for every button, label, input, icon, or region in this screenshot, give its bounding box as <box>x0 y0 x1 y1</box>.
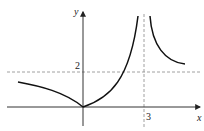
function-graph: y x 2 3 <box>0 0 204 131</box>
curve-right-branch <box>150 16 185 64</box>
curve-middle-branch <box>83 16 138 107</box>
x-tick-label: 3 <box>146 111 151 122</box>
y-axis-label: y <box>73 6 79 17</box>
curve-left-branch <box>18 82 83 107</box>
y-tick-label: 2 <box>75 60 80 71</box>
x-axis-label: x <box>196 112 202 123</box>
